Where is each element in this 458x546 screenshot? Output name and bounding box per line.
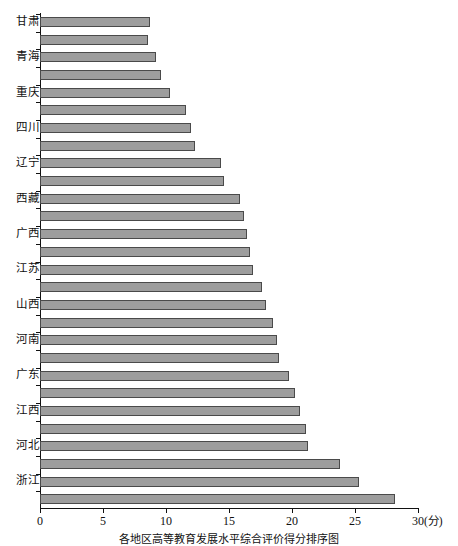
x-axis-tick — [166, 508, 167, 513]
y-axis-label: 河南 — [0, 333, 39, 345]
bar — [40, 424, 306, 434]
bar — [40, 105, 186, 115]
x-axis-unit-label: (分) — [424, 514, 443, 528]
bar — [40, 441, 308, 451]
bars-container — [40, 13, 418, 508]
x-axis-tick — [418, 508, 419, 513]
y-axis-label: 辽宁 — [0, 156, 39, 168]
x-axis-tick-label: 15 — [209, 514, 249, 528]
chart-caption: 各地区高等教育发展水平综合评价得分排序图 — [0, 533, 458, 546]
bar — [40, 194, 240, 204]
x-axis-tick — [355, 508, 356, 513]
y-axis-label: 甘肃 — [0, 15, 39, 27]
bar — [40, 247, 250, 257]
bar — [40, 158, 221, 168]
y-axis-label: 广西 — [0, 227, 39, 239]
y-axis-tick — [36, 385, 41, 386]
x-axis-tick-label: 0 — [20, 514, 60, 528]
x-axis-tick-label: 25 — [335, 514, 375, 528]
y-axis-tick — [36, 173, 41, 174]
bar — [40, 459, 340, 469]
y-axis-tick — [36, 208, 41, 209]
y-axis-label: 西藏 — [0, 192, 39, 204]
plot-area — [40, 13, 418, 508]
bar — [40, 353, 279, 363]
bar — [40, 388, 295, 398]
x-axis-tick-label: 5 — [83, 514, 123, 528]
x-axis-tick-label: 20 — [272, 514, 312, 528]
bar — [40, 371, 289, 381]
bar — [40, 318, 273, 328]
y-axis-label: 山西 — [0, 298, 39, 310]
y-axis-tick — [36, 102, 41, 103]
bar — [40, 17, 150, 27]
bar — [40, 211, 244, 221]
y-axis-tick — [36, 315, 41, 316]
y-axis-label: 河北 — [0, 439, 39, 451]
bar — [40, 494, 395, 504]
bar — [40, 123, 191, 133]
bar — [40, 52, 156, 62]
x-axis-tick — [40, 508, 41, 513]
y-axis-tick — [36, 491, 41, 492]
bar — [40, 35, 148, 45]
bar — [40, 300, 266, 310]
y-axis-tick — [36, 32, 41, 33]
y-axis-tick — [36, 138, 41, 139]
bar — [40, 335, 277, 345]
bar — [40, 406, 300, 416]
y-axis-label: 江苏 — [0, 262, 39, 274]
bar — [40, 70, 161, 80]
bar — [40, 282, 262, 292]
x-axis-tick — [103, 508, 104, 513]
y-axis-label: 重庆 — [0, 86, 39, 98]
y-axis-label: 广东 — [0, 368, 39, 380]
y-axis-tick — [36, 456, 41, 457]
y-axis-tick — [36, 244, 41, 245]
y-axis-label: 江西 — [0, 404, 39, 416]
x-axis-tick-label: 10 — [146, 514, 186, 528]
y-axis-tick — [36, 67, 41, 68]
x-axis-tick — [229, 508, 230, 513]
y-axis-tick — [36, 421, 41, 422]
bar — [40, 265, 253, 275]
y-axis-label: 四川 — [0, 121, 39, 133]
bar — [40, 477, 359, 487]
y-axis-label: 青海 — [0, 50, 39, 62]
bar — [40, 176, 224, 186]
bar — [40, 88, 170, 98]
bar — [40, 141, 195, 151]
y-axis-tick — [36, 350, 41, 351]
bar — [40, 229, 247, 239]
y-axis-tick — [36, 279, 41, 280]
x-axis-tick — [292, 508, 293, 513]
y-axis-label: 浙江 — [0, 474, 39, 486]
